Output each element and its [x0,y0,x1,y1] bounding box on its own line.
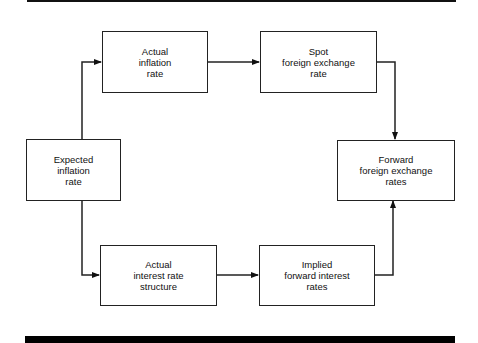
node-actual-interest: Actual interest rate structure [100,245,217,306]
node-label: Forward foreign exchange rates [360,154,433,187]
node-label: Implied forward interest rates [284,259,349,292]
node-label: Actual interest rate structure [133,259,183,292]
node-label: Spot foreign exchange rate [282,46,355,79]
edge-expected-to-actual-inflation [82,62,101,139]
node-spot-fx: Spot foreign exchange rate [260,31,377,93]
node-forward-fx: Forward foreign exchange rates [337,140,455,201]
node-label: Expected inflation rate [54,154,94,187]
node-label: Actual inflation rate [139,46,172,79]
node-actual-inflation: Actual inflation rate [102,31,208,93]
node-expected-inflation: Expected inflation rate [26,139,121,201]
edge-expected-to-actual-interest [82,200,99,275]
edge-implied-to-forward [374,201,393,275]
edge-spot-to-forward [376,62,395,139]
bottom-rule [25,336,455,343]
node-implied-forward: Implied forward interest rates [259,245,375,306]
